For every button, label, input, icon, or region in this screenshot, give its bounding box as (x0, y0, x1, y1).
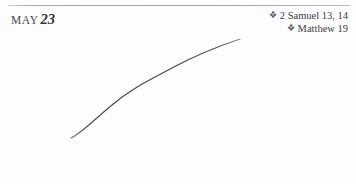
top-divider-rule (8, 5, 350, 6)
date-month-label: MAY (11, 14, 39, 26)
scripture-reference-label: 2 Samuel 13, 14 (280, 10, 348, 21)
list-item[interactable]: ❖Matthew 19 (269, 22, 348, 35)
date-day-number: 23 (41, 11, 56, 27)
list-item[interactable]: ❖2 Samuel 13, 14 (269, 9, 348, 22)
devotional-day-entry: MAY23 ❖2 Samuel 13, 14 ❖Matthew 19 (0, 0, 356, 184)
curve-stroke (71, 39, 240, 138)
scripture-reference-label: Matthew 19 (298, 23, 348, 34)
floret-bullet-icon: ❖ (287, 22, 295, 35)
scripture-reading-list: ❖2 Samuel 13, 14 ❖Matthew 19 (269, 9, 348, 35)
date-header: MAY23 (11, 11, 55, 27)
floret-bullet-icon: ❖ (269, 9, 277, 22)
